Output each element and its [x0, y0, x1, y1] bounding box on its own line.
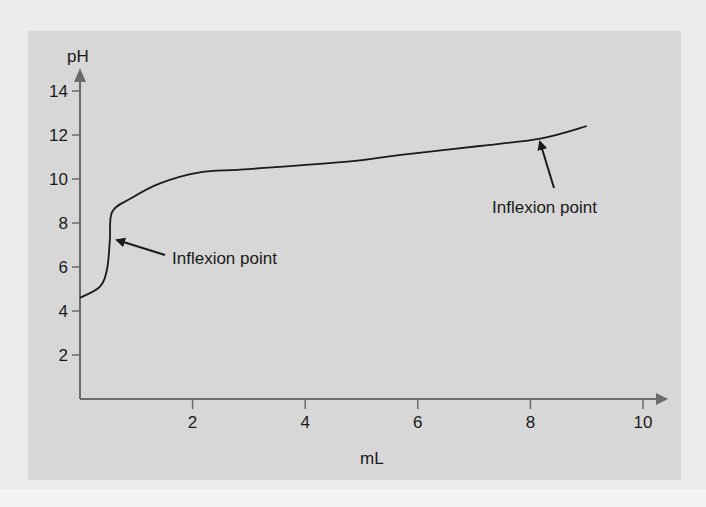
annotation-label-1: Inflexion point — [172, 249, 277, 268]
y-tick-label: 4 — [59, 302, 68, 321]
annotation-arrow-icon — [117, 240, 165, 255]
y-tick-label: 2 — [59, 346, 68, 365]
y-axis-title: pH — [67, 47, 89, 66]
y-axis-arrow-icon — [74, 68, 86, 82]
x-tick-label: 6 — [413, 413, 422, 432]
x-axis-title: mL — [360, 449, 384, 468]
axes — [74, 68, 668, 405]
y-tick-label: 14 — [49, 82, 68, 101]
annotation-arrow-icon — [540, 142, 554, 188]
x-tick-label: 8 — [526, 413, 535, 432]
x-tick-label: 2 — [188, 413, 197, 432]
x-axis-arrow-icon — [656, 393, 668, 405]
x-tick-label: 10 — [634, 413, 653, 432]
y-tick-label: 12 — [49, 126, 68, 145]
annotation-label-2: Inflexion point — [492, 198, 597, 217]
ticks: 2468101214246810 — [49, 82, 652, 432]
y-tick-label: 6 — [59, 258, 68, 277]
titration-chart: 2468101214246810 Inflexion pointInflexio… — [0, 0, 706, 507]
y-tick-label: 10 — [49, 170, 68, 189]
y-tick-label: 8 — [59, 214, 68, 233]
x-tick-label: 4 — [300, 413, 309, 432]
